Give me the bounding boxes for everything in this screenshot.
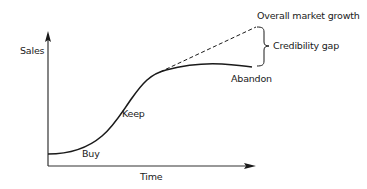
credibility-gap-label: Credibility gap — [273, 40, 339, 51]
market-growth-label: Overall market growth — [257, 10, 360, 21]
buy-label: Buy — [82, 148, 100, 159]
sales-over-time-diagram: Sales Time Buy Keep Abandon Overall mark… — [0, 0, 367, 189]
diagram-graphics — [0, 0, 367, 189]
credibility-gap-brace — [257, 27, 269, 66]
abandon-label: Abandon — [231, 73, 272, 84]
keep-label: Keep — [122, 108, 145, 119]
sales-curve — [48, 64, 252, 154]
y-axis-label: Sales — [20, 45, 44, 56]
x-axis-label: Time — [140, 171, 162, 182]
